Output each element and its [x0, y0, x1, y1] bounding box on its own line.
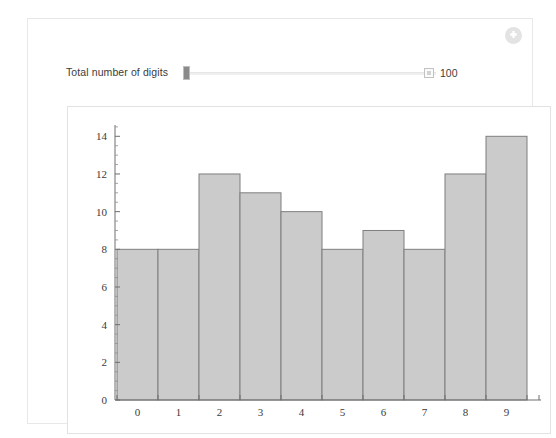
bar-3: [240, 193, 281, 400]
x-tick-label: 9: [504, 406, 510, 418]
y-tick-label: 2: [102, 356, 108, 368]
y-axis-labels: 02468101214: [96, 130, 108, 406]
bar-6: [363, 230, 404, 400]
bar-0: [117, 249, 158, 400]
y-tick-label: 6: [102, 281, 108, 293]
bar-8: [445, 174, 486, 400]
slider-track[interactable]: [188, 72, 436, 75]
plus-glyph: [508, 30, 519, 41]
y-tick-label: 4: [102, 319, 108, 331]
x-axis-labels: 0123456789: [135, 406, 510, 418]
x-tick-label: 1: [176, 406, 182, 418]
bar-1: [158, 249, 199, 400]
x-tick-label: 5: [340, 406, 346, 418]
bar-4: [281, 212, 322, 400]
slider-value: 100: [440, 67, 458, 79]
y-tick-label: 12: [96, 168, 107, 180]
x-tick-label: 7: [422, 406, 428, 418]
x-tick-label: 3: [258, 406, 264, 418]
bar-9: [486, 136, 527, 400]
bars-group: [117, 136, 527, 400]
slider-value-group: 100: [424, 65, 458, 81]
bar-7: [404, 249, 445, 400]
bar-2: [199, 174, 240, 400]
notebook-cell-panel: Total number of digits 100 02468101214 0…: [27, 18, 533, 424]
bar-chart: 02468101214 0123456789: [68, 107, 550, 433]
slider-handle[interactable]: [183, 66, 190, 80]
plus-circle-icon[interactable]: [505, 27, 522, 44]
input-field-icon[interactable]: [424, 68, 434, 78]
x-tick-label: 8: [463, 406, 469, 418]
x-tick-label: 6: [381, 406, 387, 418]
slider[interactable]: [182, 64, 438, 82]
y-tick-label: 10: [96, 206, 108, 218]
x-tick-label: 4: [299, 406, 305, 418]
bar-5: [322, 249, 363, 400]
y-tick-label: 14: [96, 130, 108, 142]
slider-control-row: Total number of digits 100: [66, 64, 456, 84]
chart-panel: 02468101214 0123456789: [67, 106, 551, 434]
slider-label: Total number of digits: [66, 66, 168, 78]
y-tick-label: 0: [102, 394, 108, 406]
bar-chart-svg: 02468101214 0123456789: [68, 107, 552, 435]
x-tick-label: 0: [135, 406, 141, 418]
x-tick-label: 2: [217, 406, 223, 418]
y-tick-label: 8: [102, 243, 108, 255]
